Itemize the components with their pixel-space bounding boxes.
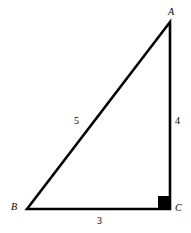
right-triangle-diagram: A B C 5 4 3 <box>0 0 191 233</box>
triangle-graphic <box>0 0 191 233</box>
vertex-label-c: C <box>175 203 182 213</box>
side-label-vertical-leg: 4 <box>175 116 180 126</box>
vertex-label-b: B <box>11 202 17 212</box>
side-label-base-leg: 3 <box>97 216 102 226</box>
right-angle-marker-icon <box>158 196 170 208</box>
triangle-outline <box>27 22 170 209</box>
side-label-hypotenuse: 5 <box>74 116 79 126</box>
vertex-label-a: A <box>168 7 174 17</box>
